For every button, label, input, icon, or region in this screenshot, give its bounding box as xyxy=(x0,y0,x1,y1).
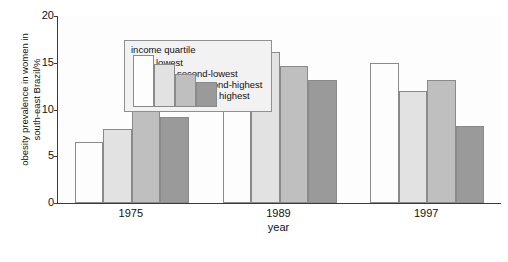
chart-legend: income quartile lowestsecond-lowestsecon… xyxy=(124,40,272,112)
legend-swatch-highest xyxy=(196,82,217,107)
bar xyxy=(399,91,428,203)
y-axis-tick-label: 15 xyxy=(32,57,54,68)
y-axis-tick-mark xyxy=(54,63,58,64)
legend-swatch-lowest xyxy=(133,55,154,107)
y-axis-tick-label: 5 xyxy=(32,150,54,161)
y-axis-tick-mark xyxy=(54,110,58,111)
plot-area: income quartile lowestsecond-lowestsecon… xyxy=(57,16,501,204)
x-axis-tick-label: 1997 xyxy=(391,207,461,219)
legend-label-highest: highest xyxy=(219,90,250,101)
y-axis-tick-label: 0 xyxy=(32,197,54,208)
legend-swatch-second-highest xyxy=(175,74,196,107)
y-axis-tick-label: 20 xyxy=(32,10,54,21)
bar xyxy=(160,117,189,203)
bar xyxy=(308,80,337,203)
x-axis-label: year xyxy=(57,221,500,233)
y-axis-tick-mark xyxy=(54,203,58,204)
x-axis-tick-label: 1989 xyxy=(244,207,314,219)
y-axis-tick-mark xyxy=(54,16,58,17)
bar xyxy=(456,126,485,203)
bar xyxy=(280,66,309,203)
y-axis-tick-mark xyxy=(54,156,58,157)
legend-swatch-second-lowest xyxy=(154,64,175,107)
y-axis-tick-labels: 05101520 xyxy=(28,0,54,215)
legend-title: income quartile xyxy=(131,44,195,55)
y-axis-tick-label: 10 xyxy=(32,104,54,115)
x-axis-tick-label: 1975 xyxy=(96,207,166,219)
bar xyxy=(223,97,252,203)
bar xyxy=(103,129,132,203)
bar xyxy=(132,108,161,203)
bar xyxy=(427,80,456,203)
bar xyxy=(75,142,104,203)
bar-chart-figure: obesity prevalence in women in south-eas… xyxy=(0,0,508,262)
bar xyxy=(370,63,399,203)
